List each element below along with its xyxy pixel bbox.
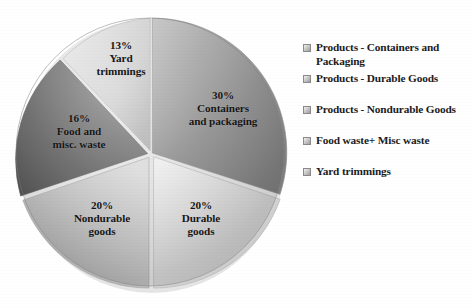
legend-row: Food waste+ Misc waste — [303, 134, 472, 148]
square-swatch-icon — [303, 168, 311, 176]
pie-chart: 30% Containers and packaging 20% Durable… — [0, 0, 300, 307]
legend-item-food-waste-misc-waste[interactable]: Food waste+ Misc waste — [303, 134, 472, 148]
legend-item-label: Products - Durable Goods — [316, 72, 472, 86]
square-swatch-icon — [303, 106, 311, 114]
legend-item-label: Food waste+ Misc waste — [316, 134, 472, 148]
legend-item-label: Products - Containers and Packaging — [316, 41, 472, 68]
legend-row: Products - Containers and Packaging — [303, 41, 472, 68]
pie-svg — [0, 0, 300, 307]
legend-item-label: Yard trimmings — [316, 165, 472, 179]
legend-item-products-durable-goods[interactable]: Products - Durable Goods — [303, 72, 472, 86]
legend-item-products-containers-and-packaging[interactable]: Products - Containers and Packaging — [303, 41, 472, 68]
legend-row: Products - Durable Goods — [303, 72, 472, 86]
square-swatch-icon — [303, 75, 311, 83]
legend-item-products-nondurable-goods[interactable]: Products - Nondurable Goods — [303, 103, 472, 117]
square-swatch-icon — [303, 44, 311, 52]
legend-item-yard-trimmings[interactable]: Yard trimmings — [303, 165, 472, 179]
legend-row: Products - Nondurable Goods — [303, 103, 472, 117]
legend-item-label: Products - Nondurable Goods — [316, 103, 472, 117]
square-swatch-icon — [303, 137, 311, 145]
legend-row: Yard trimmings — [303, 165, 472, 179]
pie-chart-figure: 30% Containers and packaging 20% Durable… — [0, 0, 472, 307]
